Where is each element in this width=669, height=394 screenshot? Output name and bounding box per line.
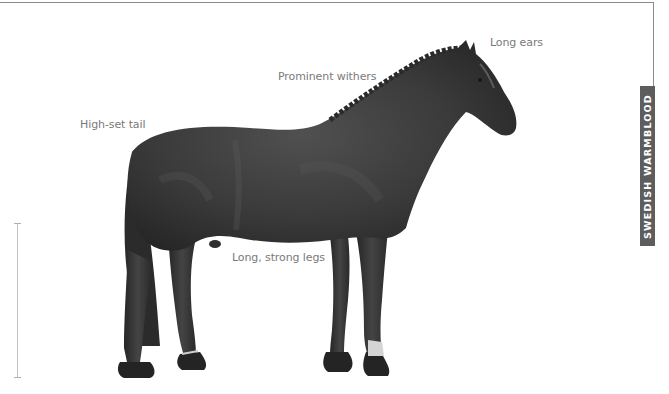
label-long-strong-legs: Long, strong legs <box>232 251 325 264</box>
label-long-ears: Long ears <box>490 36 543 49</box>
label-prominent-withers: Prominent withers <box>278 70 376 83</box>
eye-shape <box>478 78 482 82</box>
front-leg-left <box>330 236 350 354</box>
horse-illustration <box>0 0 669 394</box>
front-leg-right <box>356 230 388 356</box>
label-high-set-tail: High-set tail <box>80 118 145 131</box>
